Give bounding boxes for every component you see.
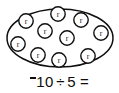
counter: r [94,26,108,40]
counter: r [19,14,33,28]
division-equation: 10 ÷ 5 = [0,70,119,93]
division-operator-icon: ÷ [56,74,65,89]
negative-sign-bar [30,77,36,79]
counter: r [38,24,52,38]
counter: r [74,13,88,27]
counter: r [31,48,45,62]
counter: r [60,31,74,45]
counter: r [11,37,25,51]
counter: r [52,53,66,67]
counter: r [51,7,65,21]
equals-sign: = [80,74,89,89]
dividend: 10 [36,74,54,89]
divisor: 5 [67,74,76,89]
counter: r [81,49,95,63]
counter-group-diagram: r r r r r r r r [0,0,119,72]
math-figure: r r r r r r r r [0,0,119,93]
